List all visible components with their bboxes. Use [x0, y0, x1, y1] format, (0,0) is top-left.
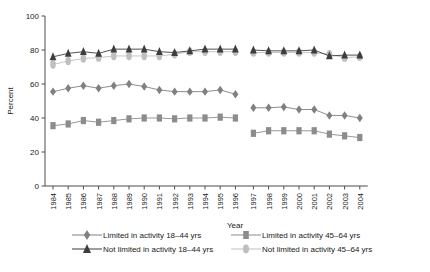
x-tick-label: 1985	[64, 193, 73, 210]
data-point-marker	[250, 104, 256, 112]
data-point-marker	[126, 115, 131, 122]
y-axis: 020406080100	[26, 12, 45, 191]
x-tick-label: 1992	[171, 193, 180, 210]
data-point-marker	[311, 105, 317, 113]
data-point-marker	[156, 86, 162, 94]
data-point-marker	[50, 122, 55, 129]
y-axis-title: Percent	[6, 86, 15, 114]
data-point-marker	[202, 45, 209, 53]
data-point-marker	[187, 87, 193, 95]
data-point-marker	[81, 54, 87, 62]
legend-label: Not limited in activity 45–64 yrs	[262, 245, 372, 254]
data-point-marker	[296, 127, 301, 134]
data-point-marker	[141, 52, 147, 60]
data-point-marker	[80, 47, 87, 55]
x-tick-label: 1997	[249, 193, 258, 210]
x-tick-label: 1991	[155, 193, 164, 210]
x-tick-label: 1994	[201, 193, 210, 210]
y-tick-label: 0	[35, 182, 40, 191]
circle-marker-icon	[231, 242, 261, 256]
legend-label: Limited in activity 18–44 yrs	[103, 231, 201, 240]
data-point-marker	[233, 114, 238, 121]
data-point-marker	[265, 46, 272, 54]
data-point-marker	[232, 90, 238, 98]
x-tick-label: 1984	[49, 193, 58, 210]
data-point-marker	[296, 46, 303, 54]
legend-row-1: Limited in activity 18–44 yrs Limited in…	[0, 228, 430, 242]
data-point-marker	[96, 119, 101, 126]
data-point-marker	[250, 45, 257, 53]
data-point-marker	[217, 86, 223, 94]
data-point-marker	[157, 114, 162, 121]
x-tick-label: 1995	[216, 193, 225, 210]
x-tick-label: 1990	[140, 193, 149, 210]
data-point-marker	[218, 114, 223, 121]
legend-item-not-limited-18-44: Not limited in activity 18–44 yrs	[0, 242, 215, 256]
series-square	[50, 114, 362, 142]
data-point-marker	[342, 111, 348, 119]
data-point-marker	[342, 132, 347, 139]
data-point-marker	[202, 87, 208, 95]
data-point-marker	[172, 87, 178, 95]
data-point-marker	[357, 114, 363, 122]
chart-legend: Limited in activity 18–44 yrs Limited in…	[0, 228, 430, 256]
x-tick-label: 2000	[295, 193, 304, 210]
data-point-marker	[327, 131, 332, 138]
legend-item-not-limited-45-64: Not limited in activity 45–64 yrs	[215, 242, 430, 256]
data-point-marker	[96, 84, 102, 92]
square-marker-icon	[231, 228, 261, 242]
data-point-marker	[341, 51, 348, 59]
data-point-marker	[280, 46, 287, 54]
data-point-marker	[142, 114, 147, 121]
x-axis: 1984198519861987198819891990199119921993…	[45, 186, 368, 210]
data-point-marker	[50, 87, 56, 95]
data-point-marker	[281, 103, 287, 111]
data-point-marker	[326, 111, 332, 119]
data-point-marker	[266, 104, 272, 112]
x-tick-label: 1999	[280, 193, 289, 210]
diamond-marker-icon	[72, 228, 102, 242]
data-point-marker	[202, 114, 207, 121]
data-point-marker	[126, 45, 133, 53]
data-point-marker	[141, 45, 148, 53]
x-tick-label: 1996	[231, 193, 240, 210]
data-point-marker	[66, 120, 71, 127]
data-point-marker	[126, 80, 132, 88]
x-tick-label: 2002	[325, 193, 334, 210]
data-point-marker	[141, 82, 147, 90]
x-tick-label: 1998	[265, 193, 274, 210]
data-point-marker	[81, 117, 86, 124]
data-point-marker	[296, 105, 302, 113]
data-point-marker	[266, 127, 271, 134]
data-point-marker	[232, 45, 239, 53]
y-tick-label: 40	[30, 114, 39, 123]
y-tick-label: 80	[30, 46, 39, 55]
x-tick-label: 1989	[125, 193, 134, 210]
data-point-marker	[126, 52, 132, 60]
x-tick-label: 2001	[310, 193, 319, 210]
triangle-marker-icon	[72, 242, 102, 256]
y-tick-label: 100	[26, 12, 40, 21]
data-point-marker	[217, 45, 224, 53]
data-point-marker	[312, 127, 317, 134]
data-point-marker	[111, 82, 117, 90]
data-point-marker	[65, 84, 71, 92]
data-series-group	[50, 45, 364, 142]
legend-label: Not limited in activity 18–44 yrs	[103, 245, 213, 254]
data-point-marker	[356, 51, 363, 59]
x-tick-label: 2003	[341, 193, 350, 210]
data-point-marker	[80, 82, 86, 90]
chart-figure: 020406080100 198419851986198719881989199…	[0, 0, 430, 272]
x-tick-label: 1987	[95, 193, 104, 210]
data-point-marker	[311, 45, 318, 53]
legend-item-limited-18-44: Limited in activity 18–44 yrs	[0, 228, 215, 242]
y-tick-label: 20	[30, 148, 39, 157]
data-point-marker	[65, 57, 71, 65]
data-point-marker	[110, 45, 117, 53]
x-tick-label: 1988	[110, 193, 119, 210]
data-point-marker	[251, 130, 256, 137]
data-point-marker	[281, 127, 286, 134]
y-tick-label: 60	[30, 80, 39, 89]
legend-item-limited-45-64: Limited in activity 45–64 yrs	[215, 228, 430, 242]
x-tick-label: 1986	[79, 193, 88, 210]
